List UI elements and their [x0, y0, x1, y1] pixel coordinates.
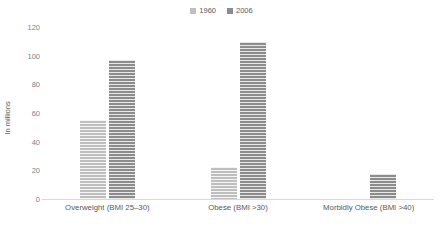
bar-1960[interactable]	[211, 167, 237, 200]
legend-item-2006: 2006	[227, 7, 253, 15]
legend-swatch-2006	[227, 8, 233, 14]
y-axis-tick-label: 20	[10, 167, 40, 175]
x-axis-category-label: Overweight (BMI 25–30)	[42, 203, 173, 213]
bar-group	[303, 28, 434, 200]
y-axis-tick-label: 0	[10, 196, 40, 204]
x-axis-category-label: Obese (BMI >30)	[173, 203, 304, 213]
bar-chart: 1960 2006 In millions 020406080100120 Ov…	[0, 0, 443, 228]
plot-area	[42, 28, 434, 200]
x-axis-labels: Overweight (BMI 25–30)Obese (BMI >30)Mor…	[42, 203, 434, 213]
legend-label-2006: 2006	[236, 7, 253, 15]
bar-2006[interactable]	[109, 60, 135, 200]
legend-item-1960: 1960	[190, 7, 216, 15]
legend-swatch-1960	[190, 8, 196, 14]
bar-group-bars	[303, 28, 434, 200]
bar-groups	[42, 28, 434, 200]
y-axis-tick-label: 120	[10, 24, 40, 32]
bar-2006[interactable]	[240, 42, 266, 200]
bar-group	[173, 28, 304, 200]
bar-group	[42, 28, 173, 200]
x-axis-baseline	[42, 199, 434, 200]
y-axis-tick-label: 40	[10, 139, 40, 147]
y-axis: 020406080100120	[10, 28, 40, 200]
legend-label-1960: 1960	[199, 7, 216, 15]
bar-group-bars	[173, 28, 304, 200]
bar-group-bars	[42, 28, 173, 200]
y-axis-tick-label: 60	[10, 110, 40, 118]
y-axis-tick-label: 80	[10, 81, 40, 89]
bar-2006[interactable]	[370, 174, 396, 200]
chart-legend: 1960 2006	[0, 5, 443, 17]
y-axis-tick-label: 100	[10, 53, 40, 61]
x-axis-category-label: Morbidly Obese (BMI >40)	[303, 203, 434, 213]
bar-1960[interactable]	[80, 120, 106, 200]
